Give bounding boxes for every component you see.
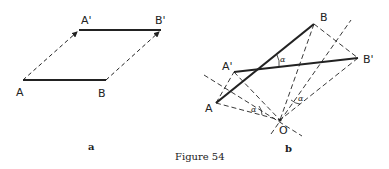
label-B-prime: B': [363, 53, 374, 66]
label-A-prime: A': [222, 60, 233, 73]
panel-label-b: b: [285, 143, 292, 154]
label-B: B: [320, 11, 328, 24]
label-B: B: [98, 87, 106, 100]
translation-arrow-A: [23, 32, 77, 80]
dashed-O-B-prime: [280, 58, 358, 120]
dashed-A-A-prime: [216, 72, 234, 103]
angle-label-top: α: [280, 55, 286, 64]
dashed-O-A-prime: [234, 72, 280, 120]
label-B-prime: B': [155, 14, 166, 27]
angle-label-left: α: [251, 105, 257, 114]
angle-arc-top: [277, 55, 279, 66]
bisector-BB-prime: [271, 20, 351, 134]
panel-a: A B A' B' a: [16, 14, 166, 152]
point-O: [278, 118, 281, 121]
label-O: O: [279, 124, 288, 137]
figure-caption: Figure 54: [175, 151, 225, 162]
panel-label-a: a: [88, 141, 95, 152]
translation-arrow-B: [106, 32, 159, 80]
dashed-O-A: [216, 103, 280, 120]
label-A: A: [16, 86, 24, 99]
label-A: A: [205, 102, 213, 115]
panel-b: B B' A' A O α α α b: [204, 11, 374, 154]
figure-54-canvas: A B A' B' a B B' A' A O α α: [0, 0, 389, 169]
segment-A-prime-B-prime: [234, 58, 358, 72]
label-A-prime: A': [81, 14, 92, 27]
angle-label-right: α: [298, 94, 304, 103]
